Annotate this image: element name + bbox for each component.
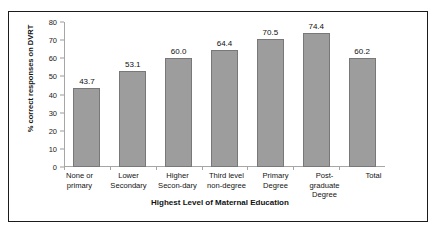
bar-value-label: 60.2 xyxy=(354,47,370,56)
bar-group[interactable]: 74.4 xyxy=(293,22,339,167)
bar-value-label: 74.4 xyxy=(308,22,324,31)
x-axis-tick-mark xyxy=(64,166,65,170)
y-axis-title: % correct responses on DVRT xyxy=(26,6,35,152)
bar-value-label: 53.1 xyxy=(125,60,141,69)
bar[interactable] xyxy=(73,88,100,167)
x-axis-tick-mark xyxy=(247,166,248,170)
x-axis-tick-mark xyxy=(293,166,294,170)
y-axis-tick-label: 10 xyxy=(49,144,57,153)
bar-value-label: 60.0 xyxy=(171,47,187,56)
bar-value-label: 64.4 xyxy=(217,39,233,48)
y-axis-tick-label: 30 xyxy=(49,108,57,117)
bar[interactable] xyxy=(257,39,284,167)
x-axis-category-label: None or primary xyxy=(55,171,104,200)
bar[interactable] xyxy=(349,58,376,167)
x-axis-category-label: Third level non-degree xyxy=(202,171,251,200)
bar-value-label: 43.7 xyxy=(79,77,95,86)
bar-group[interactable]: 43.7 xyxy=(64,22,110,167)
bar[interactable] xyxy=(303,33,330,167)
x-axis-tick-mark xyxy=(156,166,157,170)
bar-group[interactable]: 64.4 xyxy=(202,22,248,167)
y-axis-tick-label: 20 xyxy=(49,126,57,135)
x-axis-category-label: Higher Secon-dary xyxy=(153,171,202,200)
x-axis-title: Highest Level of Maternal Education xyxy=(0,198,440,207)
bar-group[interactable]: 60.0 xyxy=(156,22,202,167)
bar-group[interactable]: 60.2 xyxy=(339,22,385,167)
chart-title-cropped xyxy=(150,0,290,5)
bar-group[interactable]: 53.1 xyxy=(110,22,156,167)
y-axis-tick-label: 70 xyxy=(49,36,57,45)
y-axis-tick-label: 40 xyxy=(49,90,57,99)
x-axis-tick-mark xyxy=(110,166,111,170)
y-axis-tick-label: 80 xyxy=(49,18,57,27)
bar-group[interactable]: 70.5 xyxy=(247,22,293,167)
x-axis-tick-mark xyxy=(202,166,203,170)
bar[interactable] xyxy=(165,58,192,167)
bar[interactable] xyxy=(211,50,238,167)
x-axis-category-label: Post- graduate Degree xyxy=(300,171,349,200)
bar-value-label: 70.5 xyxy=(263,28,279,37)
x-axis-category-label: Lower Secondary xyxy=(104,171,153,200)
x-axis-tick-mark xyxy=(339,166,340,170)
x-axis-category-label: Primary Degree xyxy=(251,171,300,200)
y-axis-tick-label: 60 xyxy=(49,54,57,63)
y-axis: 80706050403020100 xyxy=(42,22,64,167)
bar[interactable] xyxy=(119,71,146,167)
y-axis-tick-label: 50 xyxy=(49,72,57,81)
x-axis-category-label: Total xyxy=(349,171,398,200)
bar-series: 43.753.160.064.470.574.460.2 xyxy=(64,22,385,167)
x-axis-category-labels: None or primaryLower SecondaryHigher Sec… xyxy=(55,171,398,200)
plot-area: 80706050403020100 43.753.160.064.470.574… xyxy=(42,22,411,167)
